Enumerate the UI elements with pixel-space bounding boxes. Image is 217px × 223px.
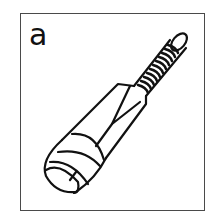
cricket-bat-icon xyxy=(0,0,217,223)
